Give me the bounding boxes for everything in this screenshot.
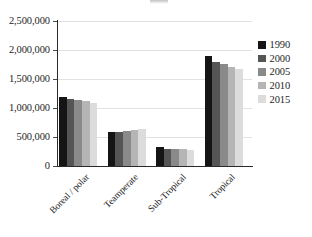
y-axis-tick-label: 1,500,000 [9, 74, 50, 84]
bar [115, 132, 123, 166]
y-axis-tickmark [53, 79, 57, 80]
y-axis-tick-label: 500,000 [17, 132, 50, 142]
y-axis-tick-label: 2,000,000 [9, 45, 50, 55]
bar [131, 130, 139, 166]
legend-item[interactable]: 2000 [258, 52, 312, 66]
bar [220, 64, 228, 166]
bar [156, 147, 164, 166]
legend-swatch-icon [258, 82, 266, 90]
bar [212, 62, 220, 166]
legend-item[interactable]: 2015 [258, 92, 312, 106]
bar [205, 56, 213, 166]
y-axis-tick-label: 0 [45, 161, 50, 171]
y-axis-tickmark [53, 50, 57, 51]
bar [138, 129, 146, 166]
bar-group [156, 21, 194, 166]
bar [179, 149, 187, 166]
legend-swatch-icon [258, 68, 266, 76]
bar-group [59, 21, 97, 166]
bar [67, 99, 75, 166]
bar-group [205, 21, 243, 166]
bar [108, 132, 116, 166]
bar [59, 97, 67, 166]
x-axis-line [57, 166, 253, 167]
legend-label: 2010 [270, 80, 291, 91]
bar [187, 150, 195, 166]
legend-label: 2015 [270, 94, 291, 105]
legend-item[interactable]: 2010 [258, 79, 312, 93]
plot-area [58, 21, 252, 166]
y-axis-tickmark [53, 21, 57, 22]
bar [123, 131, 131, 166]
legend-label: 1990 [270, 39, 291, 50]
y-axis-tickmark [53, 137, 57, 138]
bar [171, 149, 179, 166]
legend-swatch-icon [258, 95, 266, 103]
bar [235, 69, 243, 166]
y-axis-tickmark [53, 166, 57, 167]
bar [90, 103, 98, 167]
legend-label: 2000 [270, 53, 291, 64]
bar-chart: 2,500,0002,000,0001,500,0001,000,000500,… [0, 0, 312, 237]
legend-label: 2005 [270, 66, 291, 77]
legend-item[interactable]: 1990 [258, 38, 312, 52]
legend-swatch-icon [258, 55, 266, 63]
y-axis-tickmark [53, 108, 57, 109]
y-axis-tick-label: 2,500,000 [9, 16, 50, 26]
bar [164, 149, 172, 166]
legend-swatch-icon [258, 41, 266, 49]
y-axis-tick-labels: 2,500,0002,000,0001,500,0001,000,000500,… [0, 0, 55, 237]
bar [82, 101, 90, 166]
bar-group [108, 21, 146, 166]
legend-item[interactable]: 2005 [258, 65, 312, 79]
y-axis-tick-label: 1,000,000 [9, 103, 50, 113]
bar [228, 67, 236, 166]
bar [74, 100, 82, 166]
cropped-title-artifact [150, 0, 168, 4]
chart-legend: 19902000200520102015 [258, 38, 312, 106]
